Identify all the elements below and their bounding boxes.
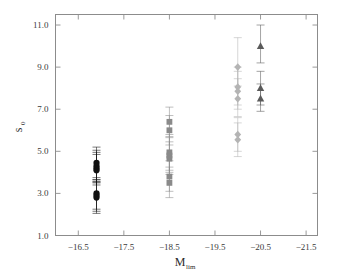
data-point-circle [93, 195, 99, 201]
scatter-plot-canvas: 1.03.05.07.09.011.0 −16.5−17.5−18.5−19.5… [0, 0, 342, 278]
y-axis-title-text: s [11, 127, 25, 132]
data-point-square [167, 174, 173, 180]
y-tick-label: 9.0 [37, 62, 49, 72]
chart-figure: 1.03.05.07.09.011.0 −16.5−17.5−18.5−19.5… [0, 0, 342, 278]
data-point-square [167, 127, 173, 133]
series-circles [93, 147, 101, 213]
x-tick-label: −19.5 [205, 242, 226, 252]
x-tick-label: −17.5 [113, 242, 134, 252]
data-point-diamond [234, 136, 241, 144]
data-point-square [167, 119, 173, 125]
data-point-diamond [234, 95, 241, 103]
series-diamonds [234, 38, 242, 157]
data-point-square [167, 156, 173, 162]
data-point-triangle [257, 95, 264, 102]
y-tick-label: 11.0 [33, 20, 49, 30]
y-tick-label: 7.0 [37, 104, 49, 114]
data-series-group [93, 25, 265, 213]
data-point-diamond [234, 63, 241, 71]
axis-tickmarks [56, 15, 318, 236]
x-tick-label: −20.5 [250, 242, 271, 252]
x-axis-title: M lim [175, 255, 196, 271]
x-tick-label: −16.5 [68, 242, 89, 252]
y-tick-label: 3.0 [37, 188, 49, 198]
y-axis-title: s 0 [11, 121, 27, 132]
y-tick-label: 5.0 [37, 146, 49, 156]
x-tick-labels: −16.5−17.5−18.5−19.5−20.5−21.5 [68, 242, 317, 252]
series-squares [165, 107, 173, 198]
x-tick-label: −18.5 [159, 242, 180, 252]
y-tick-labels: 1.03.05.07.09.011.0 [33, 20, 49, 240]
data-point-triangle [257, 84, 264, 91]
plot-frame [56, 15, 318, 236]
data-point-triangle [257, 42, 264, 49]
x-tick-label: −21.5 [296, 242, 317, 252]
y-axis-title-subscript: 0 [19, 121, 27, 125]
data-point-square [167, 180, 173, 186]
x-axis-title-text: M [175, 255, 186, 269]
series-triangles [257, 25, 265, 111]
x-axis-title-subscript: lim [186, 263, 196, 271]
data-point-diamond [234, 88, 241, 96]
y-tick-label: 1.0 [37, 231, 49, 241]
data-point-circle [93, 167, 99, 173]
